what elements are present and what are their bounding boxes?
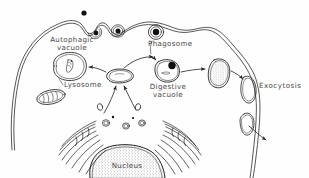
- label-exocytosis: Exocytosis: [259, 82, 309, 91]
- digestive-vacuole: [155, 60, 180, 83]
- label-digestive-line2: vacuole: [153, 90, 183, 99]
- label-autophagic-line2: vacuole: [57, 43, 87, 52]
- phagosome-vesicle: [148, 25, 163, 40]
- arrow-golgi-to-lysosome-left: [104, 86, 116, 113]
- arrow-golgi-to-lysosome-right: [124, 86, 136, 110]
- label-phagosome: Phagosome: [148, 40, 200, 49]
- arrow-residual-to-exocytosis: [231, 71, 243, 79]
- lysosome: [107, 69, 134, 83]
- figure-root: Autophagic vacuole Phagosome Lysosome Di…: [0, 0, 309, 178]
- extracellular-particle: [81, 10, 86, 15]
- label-autophagic-vacuole: Autophagic vacuole: [43, 36, 101, 53]
- exocytic-vesicle-lower: [240, 113, 254, 135]
- lysosome-leader: [59, 79, 63, 85]
- label-lysosome: Lysosome: [64, 81, 108, 90]
- autophagic-vacuole: [54, 52, 87, 80]
- arrow-lysosome-to-autophagic: [89, 67, 106, 72]
- pinching-vesicle: [111, 25, 124, 37]
- arrow-digestive-to-residual: [181, 69, 205, 72]
- exocytic-vesicle: [241, 76, 256, 103]
- residual-body: [208, 59, 230, 88]
- mitochondrion: [35, 87, 66, 107]
- arrow-secretion-out: [249, 126, 266, 140]
- label-nucleus: Nucleus: [106, 162, 148, 171]
- label-digestive-vacuole: Digestive vacuole: [142, 83, 194, 100]
- golgi-vesicles: [96, 103, 145, 129]
- arrow-lysosome-to-digestive: [124, 57, 153, 68]
